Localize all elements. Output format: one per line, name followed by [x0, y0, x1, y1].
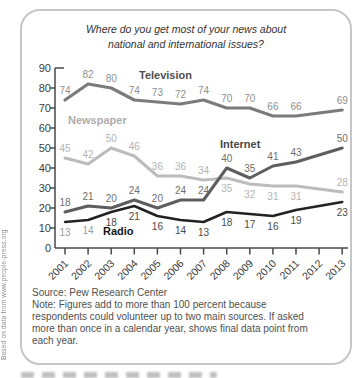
svg-text:70: 70: [39, 102, 51, 114]
svg-text:43: 43: [290, 147, 302, 158]
svg-text:35: 35: [244, 163, 256, 174]
svg-text:14: 14: [83, 225, 95, 236]
svg-text:2006: 2006: [161, 257, 186, 282]
chart-title-line2: national and international issues?: [108, 38, 264, 50]
note-line-3: more than once in a calendar year, shows…: [32, 323, 352, 335]
source-text: Source: Pew Research Center: [32, 287, 352, 299]
svg-text:2009: 2009: [230, 257, 255, 282]
note-line-1: Note: Figures add to more than 100 perce…: [32, 299, 352, 311]
svg-text:24: 24: [175, 185, 187, 196]
svg-text:72: 72: [175, 89, 187, 100]
svg-text:19: 19: [290, 215, 302, 226]
svg-text:14: 14: [175, 225, 187, 236]
svg-text:18: 18: [221, 217, 233, 228]
cropped-figure-caption: [21, 372, 217, 378]
series-value-labels-television: 748280747372747070666669: [59, 69, 348, 112]
svg-text:40: 40: [39, 162, 51, 174]
svg-text:2008: 2008: [207, 257, 232, 282]
series-name-label-internet: Internet: [220, 138, 261, 150]
svg-text:50: 50: [337, 133, 349, 144]
svg-text:50: 50: [39, 142, 51, 154]
svg-text:90: 90: [39, 62, 51, 74]
svg-text:24: 24: [129, 185, 141, 196]
svg-text:2005: 2005: [138, 257, 163, 282]
chart-title: Where do you get most of your news about…: [22, 22, 350, 52]
svg-text:18: 18: [59, 197, 71, 208]
svg-text:17: 17: [244, 219, 256, 230]
svg-text:2011: 2011: [277, 257, 302, 282]
svg-text:20: 20: [106, 193, 118, 204]
series-name-label-newspaper: Newspaper: [68, 114, 127, 126]
svg-text:66: 66: [267, 101, 279, 112]
svg-text:82: 82: [83, 69, 95, 80]
svg-text:45: 45: [59, 143, 71, 154]
svg-text:10: 10: [39, 222, 51, 234]
svg-text:36: 36: [175, 161, 187, 172]
svg-text:20: 20: [39, 202, 51, 214]
svg-text:2007: 2007: [184, 257, 209, 282]
svg-text:2003: 2003: [92, 257, 117, 282]
svg-text:36: 36: [152, 161, 164, 172]
svg-text:2004: 2004: [115, 257, 140, 282]
source-note-block: Source: Pew Research Center Note: Figure…: [32, 287, 352, 347]
svg-text:73: 73: [152, 87, 164, 98]
svg-text:30: 30: [39, 182, 51, 194]
svg-text:16: 16: [152, 221, 164, 232]
svg-text:20: 20: [152, 193, 164, 204]
svg-text:16: 16: [267, 221, 279, 232]
svg-text:60: 60: [39, 122, 51, 134]
svg-text:74: 74: [129, 85, 141, 96]
note-line-4: each year.: [32, 335, 352, 347]
svg-text:80: 80: [106, 73, 118, 84]
svg-text:34: 34: [198, 165, 210, 176]
svg-text:21: 21: [83, 191, 95, 202]
svg-text:40: 40: [221, 153, 233, 164]
svg-text:21: 21: [129, 211, 141, 222]
svg-text:0: 0: [45, 242, 51, 254]
svg-text:2002: 2002: [69, 257, 94, 282]
credit-sidebar-text: Based on data from www.people-press.org: [0, 212, 11, 360]
x-axis-tick-labels: 2001200220032004200520062007200820092010…: [45, 257, 347, 282]
svg-text:46: 46: [129, 141, 141, 152]
svg-text:42: 42: [83, 149, 95, 160]
series-name-label-television: Television: [139, 69, 192, 81]
svg-text:2010: 2010: [253, 257, 278, 282]
svg-text:50: 50: [106, 133, 118, 144]
svg-text:13: 13: [59, 227, 71, 238]
svg-text:70: 70: [244, 93, 256, 104]
svg-text:23: 23: [337, 207, 349, 218]
svg-text:2013: 2013: [323, 257, 348, 282]
svg-text:66: 66: [290, 101, 302, 112]
svg-text:2012: 2012: [300, 257, 325, 282]
svg-text:70: 70: [221, 93, 233, 104]
news-sources-line-chart: 0102030405060708090200120022003200420052…: [30, 58, 352, 308]
svg-text:28: 28: [337, 177, 349, 188]
svg-text:31: 31: [290, 191, 302, 202]
svg-text:32: 32: [244, 189, 256, 200]
page: Based on data from www.people-press.org …: [0, 0, 358, 378]
y-axis-tick-labels: 0102030405060708090: [39, 62, 51, 254]
svg-text:24: 24: [198, 185, 210, 196]
svg-text:13: 13: [198, 227, 210, 238]
note-line-2: respondents could volunteer up to two ma…: [32, 311, 352, 323]
svg-text:74: 74: [198, 85, 210, 96]
svg-text:74: 74: [59, 85, 71, 96]
svg-text:69: 69: [337, 95, 349, 106]
chart-title-line1: Where do you get most of your news about: [86, 23, 286, 35]
svg-text:80: 80: [39, 82, 51, 94]
series-name-label-radio: Radio: [103, 225, 134, 237]
svg-text:31: 31: [267, 191, 279, 202]
svg-text:41: 41: [267, 151, 279, 162]
svg-text:35: 35: [221, 183, 233, 194]
chart-card: Where do you get most of your news about…: [20, 9, 352, 365]
svg-text:2001: 2001: [45, 257, 70, 282]
